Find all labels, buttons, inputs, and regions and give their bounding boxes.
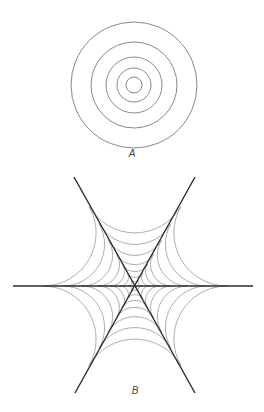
tangent-arc-w6-1 — [174, 206, 227, 286]
diagram-canvas — [0, 0, 264, 412]
concentric-circle-4 — [117, 68, 151, 102]
tangent-arc-w1-2 — [165, 286, 207, 348]
tangent-arc-w3-1 — [43, 286, 96, 366]
tangent-arc-w4-2 — [63, 224, 105, 286]
figure-label-b: B — [132, 385, 139, 396]
tangent-arc-w1-5 — [146, 286, 160, 308]
tangent-arc-w6-2 — [165, 224, 207, 286]
concentric-circle-3 — [106, 57, 162, 113]
tangent-arc-w4-5 — [110, 264, 124, 286]
concentric-circle-5 — [126, 77, 142, 93]
concentric-circle-1 — [71, 22, 197, 148]
tangent-arc-w4-1 — [43, 206, 96, 286]
tangent-arc-w3-5 — [110, 286, 124, 308]
figure-label-a: A — [129, 148, 136, 159]
three-line-arc-figure — [13, 177, 253, 393]
tangent-arc-w3-2 — [63, 286, 105, 348]
tangent-arc-w6-7 — [138, 280, 142, 286]
tangent-arc-w1-1 — [174, 286, 227, 366]
concentric-circles-figure — [71, 22, 197, 148]
tangent-arc-w6-5 — [146, 264, 160, 286]
concentric-circle-2 — [91, 42, 177, 128]
